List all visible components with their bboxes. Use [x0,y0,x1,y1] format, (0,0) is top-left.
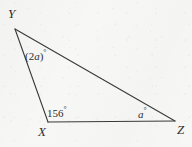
edge-xz-line [48,121,175,122]
vertex-label-z: Z [177,123,184,136]
geometry-figure: Y X Z (2a)° 156° a° [0,0,192,147]
angle-label-x: 156° [47,106,67,119]
angle-label-y: (2a)° [25,49,47,62]
angle-label-z: a° [138,107,147,120]
edge-yz-line [15,29,175,121]
triangle-drawing [0,0,192,147]
angle-y-prefix: (2 [25,50,34,62]
edge-yx-line [15,29,48,122]
angle-y-degree-symbol: ° [43,48,46,57]
angle-x-value: 156 [47,107,64,119]
vertex-label-x: X [38,125,46,138]
angle-x-degree-symbol: ° [64,105,67,114]
angle-z-degree-symbol: ° [144,106,147,115]
vertex-label-y: Y [8,7,15,20]
